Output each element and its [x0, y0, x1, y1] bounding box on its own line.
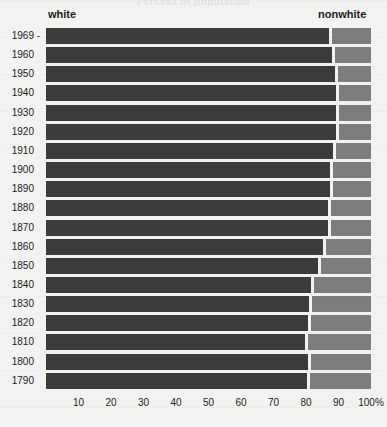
y-axis-tick-label: 1800	[0, 354, 34, 370]
x-axis-tick-label: 80	[300, 396, 311, 410]
bar-row	[46, 105, 371, 121]
bar-row	[46, 277, 371, 293]
bar-segment-nonwhite	[308, 334, 371, 350]
bar-segment-nonwhite	[314, 277, 371, 293]
bar-segment-nonwhite	[310, 373, 371, 389]
bar-row	[46, 47, 371, 63]
bar-segment-white	[46, 200, 328, 216]
bar-row	[46, 181, 371, 197]
y-axis-labels: 1969196019501940193019201910190018901880…	[0, 28, 44, 392]
x-axis-tick-label: 10	[73, 396, 84, 410]
bar-segment-white	[46, 47, 332, 63]
bar-segment-nonwhite	[311, 354, 371, 370]
y-axis-tick-label: 1920	[0, 124, 34, 140]
bar-segment-nonwhite	[326, 239, 371, 255]
bar-segment-white	[46, 315, 308, 331]
chart-legend: white nonwhite	[0, 7, 387, 23]
bar-segment-white	[46, 354, 308, 370]
bar-segment-nonwhite	[331, 220, 371, 236]
bar-row	[46, 373, 371, 389]
bar-segment-nonwhite	[321, 258, 371, 274]
bar-segment-nonwhite	[312, 296, 371, 312]
bar-segment-nonwhite	[339, 105, 371, 121]
bar-segment-white	[46, 220, 328, 236]
bar-row	[46, 124, 371, 140]
y-axis-tick-label: 1900	[0, 162, 34, 178]
legend-label-white: white	[48, 7, 76, 21]
x-axis-tick-label: 40	[170, 396, 181, 410]
bar-segment-white	[46, 124, 336, 140]
bar-segment-nonwhite	[339, 124, 371, 140]
bar-segment-white	[46, 66, 335, 82]
y-axis-tick-label: 1940	[0, 85, 34, 101]
y-axis-tick-label: 1960	[0, 47, 34, 63]
bar-segment-white	[46, 28, 329, 44]
stacked-bar-chart: Percent of population white nonwhite 196…	[0, 0, 387, 427]
x-axis-labels: 102030405060708090100%	[46, 396, 387, 412]
bar-segment-nonwhite	[335, 47, 371, 63]
bar-row	[46, 28, 371, 44]
bar-segment-nonwhite	[332, 28, 371, 44]
x-axis-tick-label: 90	[333, 396, 344, 410]
y-axis-tick-label: 1930	[0, 105, 34, 121]
bar-segment-white	[46, 143, 333, 159]
bar-segment-white	[46, 334, 305, 350]
bar-row	[46, 354, 371, 370]
y-axis-tick-label: 1840	[0, 277, 34, 293]
y-axis-tick-label: 1830	[0, 296, 34, 312]
x-axis-tick-label: 100%	[358, 396, 384, 410]
y-axis-tick-label: 1880	[0, 200, 34, 216]
y-axis-tick-label: 1910	[0, 143, 34, 159]
y-axis-tick-label: 1860	[0, 239, 34, 255]
y-axis-tick-label: 1870	[0, 220, 34, 236]
bar-row	[46, 334, 371, 350]
y-axis-tick-label: 1850	[0, 258, 34, 274]
y-axis-tick-label: 1790	[0, 373, 34, 389]
x-axis-tick-label: 30	[138, 396, 149, 410]
x-axis-tick-label: 20	[105, 396, 116, 410]
plot-area	[46, 28, 371, 392]
bar-segment-white	[46, 85, 336, 101]
x-axis-tick-label: 60	[235, 396, 246, 410]
bar-segment-white	[46, 105, 336, 121]
y-axis-tick-label: 1810	[0, 334, 34, 350]
x-axis-tick-label: 70	[268, 396, 279, 410]
x-axis-tick-label: 50	[203, 396, 214, 410]
bar-row	[46, 200, 371, 216]
bar-row	[46, 162, 371, 178]
y-axis-tick-mark	[37, 36, 40, 37]
y-axis-tick-label: 1890	[0, 181, 34, 197]
bar-row	[46, 296, 371, 312]
bar-segment-nonwhite	[331, 200, 371, 216]
bar-row	[46, 85, 371, 101]
bar-segment-white	[46, 258, 318, 274]
bar-segment-white	[46, 296, 309, 312]
bar-row	[46, 258, 371, 274]
bar-row	[46, 143, 371, 159]
bar-row	[46, 315, 371, 331]
bar-segment-nonwhite	[336, 143, 371, 159]
bar-segment-white	[46, 162, 330, 178]
bar-row	[46, 239, 371, 255]
bar-segment-nonwhite	[311, 315, 371, 331]
y-axis-tick-label: 1969	[0, 28, 34, 44]
bar-segment-white	[46, 373, 307, 389]
bar-segment-nonwhite	[333, 181, 371, 197]
y-axis-tick-label: 1950	[0, 66, 34, 82]
bar-segment-white	[46, 239, 323, 255]
bar-row	[46, 66, 371, 82]
bar-segment-white	[46, 181, 330, 197]
legend-label-nonwhite: nonwhite	[318, 7, 366, 21]
bar-segment-white	[46, 277, 311, 293]
y-axis-tick-label: 1820	[0, 315, 34, 331]
bar-segment-nonwhite	[339, 85, 371, 101]
bar-segment-nonwhite	[333, 162, 371, 178]
bar-segment-nonwhite	[338, 66, 371, 82]
chart-title: Percent of population	[0, 0, 387, 6]
bar-row	[46, 220, 371, 236]
